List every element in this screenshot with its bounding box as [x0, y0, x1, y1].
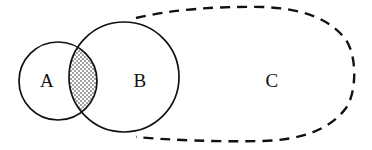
region-c-dashed-outline: [136, 7, 354, 141]
set-label-b: B: [134, 70, 147, 91]
set-label-c: C: [266, 70, 279, 91]
set-label-a: A: [40, 70, 54, 91]
venn-diagram-canvas: A B C: [0, 0, 372, 150]
venn-diagram-root: A B C: [0, 0, 372, 150]
